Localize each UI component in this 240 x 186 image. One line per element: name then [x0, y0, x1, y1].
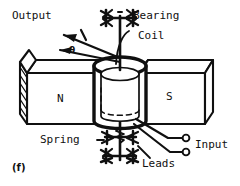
label-pole-south: S [166, 91, 173, 102]
magnet-south-block [140, 60, 213, 124]
label-pole-north: N [57, 93, 64, 104]
label-spring: Spring [40, 134, 80, 145]
label-output: Output [12, 10, 52, 21]
figure-caption: (f) [12, 162, 26, 173]
label-leads: Leads [142, 158, 175, 169]
label-theta: θ [69, 45, 75, 56]
transducer-diagram [0, 0, 240, 186]
label-input: Input [195, 139, 228, 150]
label-bearing: Bearing [133, 10, 179, 21]
label-coil: Coil [138, 30, 165, 41]
magnet-north-block [20, 50, 105, 124]
